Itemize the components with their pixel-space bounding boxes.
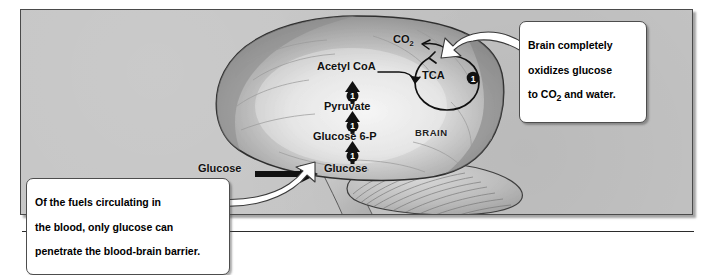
callout-blood-brain-barrier: Of the fuels circulating in the blood, o… [26,178,230,275]
label-co2: CO2 [393,33,414,48]
label-glucose-external: Glucose [198,162,241,174]
co2-subscript: 2 [410,39,414,48]
callout-oxidation-line3-a: to CO [528,88,557,100]
label-brain: BRAIN [415,127,448,138]
callout-oxidation-line1: Brain completely [528,39,638,51]
callout-oxidation: Brain completely oxidizes glucose to CO2… [519,21,647,123]
callout-bbb-line2: the blood, only glucose can [35,221,221,233]
label-acetyl-coa: Acetyl CoA [317,60,376,72]
callout-bbb-line3: penetrate the blood-brain barrier. [35,245,221,257]
svg-text:1: 1 [350,151,355,161]
co2-main: CO [393,33,410,45]
callout-oxidation-line3-b: and water. [561,88,615,100]
svg-text:1: 1 [471,74,476,84]
callout-bbb-line1: Of the fuels circulating in [35,196,221,208]
callout-oxidation-line3: to CO2 and water. [528,88,638,104]
label-glucose-6-p: Glucose 6-P [313,130,377,142]
callout-oxidation-line2: oxidizes glucose [528,64,638,76]
label-pyruvate: Pyruvate [324,100,370,112]
label-glucose-intracellular: Glucose [324,162,367,174]
label-tca: TCA [422,69,445,81]
